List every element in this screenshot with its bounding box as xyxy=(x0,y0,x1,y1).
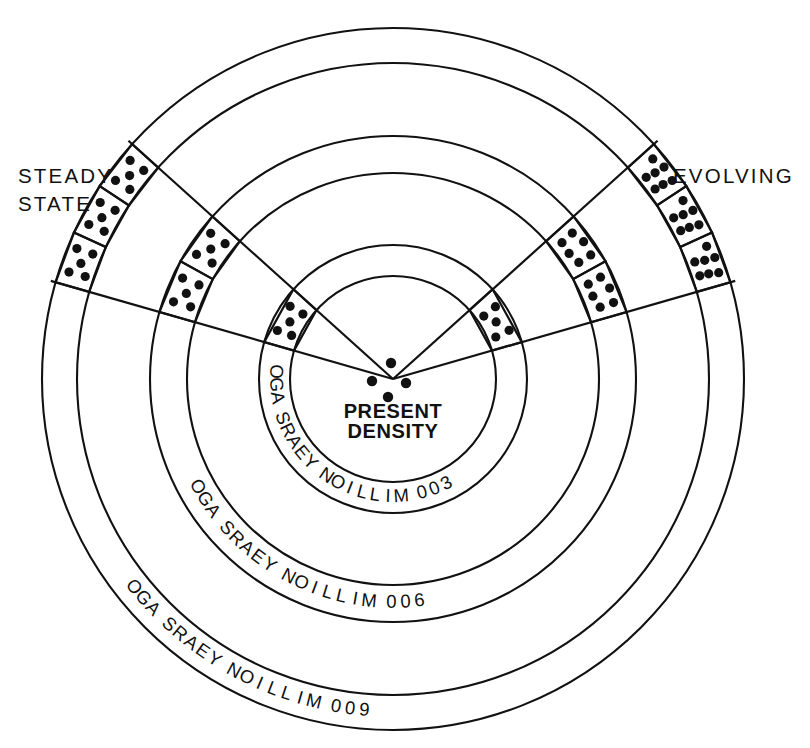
ring-label-char: 0 xyxy=(386,591,397,612)
galaxy-dot xyxy=(192,250,201,259)
ring-label-char: L xyxy=(368,483,382,505)
ring-label-char: L xyxy=(334,584,350,607)
galaxy-dot xyxy=(125,171,134,180)
galaxy-dot xyxy=(676,226,685,235)
galaxy-dot xyxy=(704,269,713,278)
ring-label-char: 0 xyxy=(344,697,358,719)
galaxy-dot xyxy=(605,284,614,293)
radial-density-diagram: PRESENT DENSITY STEADY STATE EVOLVING 30… xyxy=(0,0,810,748)
galaxy-dot xyxy=(84,220,93,229)
ring-label-char: O xyxy=(266,364,288,381)
galaxy-dot xyxy=(596,273,605,282)
galaxy-dot xyxy=(568,229,577,238)
galaxy-dot xyxy=(685,223,694,232)
galaxy-dot xyxy=(111,206,120,215)
center-label-line2: DENSITY xyxy=(348,420,439,442)
galaxy-dot xyxy=(287,331,296,340)
ring-label-char: M xyxy=(304,689,325,713)
galaxy-dot xyxy=(586,250,595,259)
galaxy-dot xyxy=(125,185,134,194)
galaxy-dot xyxy=(126,156,135,165)
galaxy-dot xyxy=(298,310,307,319)
galaxy-dot xyxy=(206,229,215,238)
galaxy-dot xyxy=(81,272,90,281)
center-dot xyxy=(386,358,396,368)
galaxy-dot xyxy=(194,280,203,289)
galaxy-dot xyxy=(76,259,85,268)
galaxy-dot xyxy=(96,198,105,207)
galaxy-dot xyxy=(557,238,566,247)
diagram-canvas: PRESENT DENSITY STEADY STATE EVOLVING 30… xyxy=(0,0,810,748)
galaxy-dot xyxy=(651,168,660,177)
ring-label-char: M xyxy=(393,484,411,506)
ring-label-char: 9 xyxy=(358,698,371,720)
evolving-label: EVOLVING xyxy=(673,164,794,187)
galaxy-dot xyxy=(491,302,500,311)
density-cell-evolving-middle-1 xyxy=(573,261,626,322)
ring-label-char: 0 xyxy=(329,694,344,717)
galaxy-dot xyxy=(714,268,723,277)
galaxy-dot xyxy=(659,163,668,172)
galaxy-dot xyxy=(702,242,711,251)
center-label-line1: PRESENT xyxy=(344,400,443,422)
steady-state-label-line1: STEADY xyxy=(18,164,113,187)
galaxy-dot xyxy=(648,154,657,163)
galaxy-dot xyxy=(651,184,660,193)
steady-state-label-line2: STATE xyxy=(18,192,92,215)
galaxy-dot xyxy=(64,268,73,277)
wedge-boundary-steady-state-end xyxy=(51,281,393,379)
ring-label-char: I xyxy=(385,485,392,506)
galaxy-dot xyxy=(221,239,230,248)
ring-label-char: 6 xyxy=(413,589,427,611)
galaxy-dot xyxy=(182,289,191,298)
galaxy-dot xyxy=(72,244,81,253)
galaxy-dot xyxy=(186,302,195,311)
galaxy-dot xyxy=(700,256,709,265)
galaxy-dot xyxy=(678,196,687,205)
galaxy-dot xyxy=(669,213,678,222)
galaxy-dot xyxy=(659,180,668,189)
galaxy-dot xyxy=(88,250,97,259)
galaxy-dot xyxy=(584,280,593,289)
galaxy-dot xyxy=(609,298,618,307)
galaxy-dot xyxy=(710,253,719,262)
center-dot-cluster xyxy=(367,358,411,402)
galaxy-dot xyxy=(139,166,148,175)
galaxy-dot xyxy=(206,245,215,254)
galaxy-dot xyxy=(579,237,588,246)
galaxy-dot xyxy=(690,257,699,266)
galaxy-dot xyxy=(492,317,501,326)
ring-label-char: I xyxy=(351,587,361,609)
galaxy-dot xyxy=(679,210,688,219)
galaxy-dot xyxy=(574,258,583,267)
galaxy-dot xyxy=(208,259,217,268)
galaxy-dot xyxy=(565,249,574,258)
wedge-boundary-evolving-start xyxy=(393,281,735,379)
galaxy-dot xyxy=(97,213,106,222)
galaxy-dot xyxy=(505,326,514,335)
galaxy-dot xyxy=(286,302,295,311)
galaxy-dot xyxy=(273,326,282,335)
galaxy-dot xyxy=(178,274,187,283)
galaxy-dot xyxy=(596,303,605,312)
galaxy-dot xyxy=(694,220,703,229)
ring-label-char: 0 xyxy=(400,590,413,612)
density-cell-evolving-middle-2 xyxy=(546,216,605,279)
center-dot xyxy=(367,376,377,386)
galaxy-dot xyxy=(479,312,488,321)
galaxy-dot xyxy=(169,297,178,306)
ring-label-char: M xyxy=(360,589,379,612)
galaxy-dot xyxy=(695,271,704,280)
galaxy-dot xyxy=(100,227,109,236)
galaxy-dot xyxy=(688,206,697,215)
galaxy-dot xyxy=(285,317,294,326)
galaxy-dot xyxy=(642,173,651,182)
center-dot xyxy=(401,378,411,388)
galaxy-dot xyxy=(491,332,500,341)
galaxy-dot xyxy=(588,292,597,301)
